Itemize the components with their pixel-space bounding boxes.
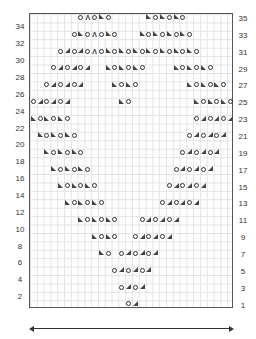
k2tog-icon (207, 132, 214, 140)
k2tog-icon (166, 233, 173, 241)
k2tog-icon (139, 250, 146, 258)
ssk-icon (44, 115, 51, 123)
ssk-icon (64, 166, 71, 174)
yarn-over-icon (140, 268, 145, 273)
k2tog-icon (194, 166, 199, 171)
k2tog-icon (72, 65, 77, 70)
k2tog-icon (65, 48, 70, 53)
yarn-over-icon (85, 167, 90, 172)
sk2p-icon: Λ (91, 31, 98, 39)
k2tog-icon (50, 98, 57, 106)
yarn-over-icon (180, 150, 185, 155)
yarn-over-icon (51, 65, 56, 70)
yarn-over-icon (220, 115, 227, 123)
k2tog-icon (208, 132, 213, 137)
ssk-icon (106, 31, 111, 36)
yarn-over-icon (91, 14, 98, 22)
yarn-over-icon (57, 98, 64, 106)
yarn-over-icon (208, 65, 213, 70)
k2tog-icon (200, 149, 207, 157)
yarn-over-icon (119, 285, 124, 290)
k2tog-icon (214, 116, 219, 121)
yarn-over-icon (167, 183, 172, 188)
yarn-over-icon (152, 216, 159, 224)
yarn-over-icon (99, 32, 104, 37)
yarn-over-icon (64, 115, 71, 123)
row-label-24: 24 (13, 107, 27, 116)
ssk-icon (146, 14, 153, 22)
ssk-icon (174, 65, 179, 70)
yarn-over-icon (180, 149, 187, 157)
row-label-4: 4 (13, 275, 27, 284)
row-label-8: 8 (13, 242, 27, 251)
yarn-over-icon (98, 233, 105, 241)
k2tog-icon (193, 166, 200, 174)
row-label-21: 21 (236, 132, 250, 141)
yarn-over-icon (58, 82, 63, 87)
k2tog-icon (78, 48, 83, 53)
yarn-over-icon (58, 133, 63, 138)
k2tog-icon (146, 267, 153, 275)
yarn-over-icon (72, 49, 77, 54)
yarn-over-icon (153, 49, 158, 54)
ssk-icon (78, 216, 85, 224)
ssk-icon (44, 149, 49, 154)
yarn-over-icon (153, 217, 158, 222)
yarn-over-icon (186, 199, 193, 207)
ssk-icon (92, 217, 97, 222)
yarn-over-icon (200, 98, 207, 106)
yarn-over-icon (72, 167, 77, 172)
row-label-35: 35 (236, 14, 250, 23)
yarn-over-icon (207, 115, 214, 123)
k2tog-icon (174, 217, 179, 222)
ssk-icon (140, 31, 145, 36)
yarn-over-icon (166, 216, 173, 224)
yarn-over-icon (78, 14, 85, 22)
k2tog-icon (140, 234, 145, 239)
ssk-icon (160, 48, 165, 53)
yarn-over-icon (140, 49, 145, 54)
yarn-over-icon (153, 15, 158, 20)
yarn-over-icon (152, 48, 159, 56)
ssk-icon (174, 48, 179, 53)
yarn-over-icon (166, 48, 173, 56)
yarn-over-icon (112, 234, 117, 239)
yarn-over-icon (98, 31, 105, 39)
ssk-icon (65, 166, 70, 171)
k2tog-icon (132, 267, 139, 275)
yarn-over-icon (44, 132, 51, 140)
row-label-22: 22 (13, 124, 27, 133)
yarn-over-icon (167, 15, 172, 20)
ssk-icon (208, 99, 213, 104)
yarn-over-icon (193, 183, 200, 191)
yarn-over-icon (99, 217, 104, 222)
sk2p-icon: Λ (84, 14, 91, 22)
yarn-over-icon (65, 183, 70, 188)
ssk-icon (106, 65, 111, 70)
yarn-over-icon (132, 250, 139, 258)
yarn-over-icon (71, 31, 78, 39)
k2tog-icon (57, 65, 64, 73)
yarn-over-icon (112, 216, 119, 224)
k2tog-icon (133, 301, 138, 306)
yarn-over-icon (208, 116, 213, 121)
ssk-icon (57, 115, 64, 123)
yarn-over-icon (125, 65, 132, 73)
sk2p-icon: Λ (92, 31, 97, 38)
yarn-over-icon (214, 132, 221, 140)
row-label-1: 1 (236, 301, 250, 310)
ssk-icon (174, 14, 179, 19)
ssk-icon (173, 14, 180, 22)
yarn-over-icon (112, 268, 117, 273)
yarn-over-icon (228, 99, 233, 104)
yarn-over-icon (64, 183, 71, 191)
ssk-icon (78, 217, 83, 222)
yarn-over-icon (194, 116, 199, 121)
yarn-over-icon (208, 150, 213, 155)
yarn-over-icon (78, 65, 83, 70)
yarn-over-icon (174, 200, 179, 205)
ssk-icon (201, 82, 206, 87)
k2tog-icon (132, 301, 139, 309)
yarn-over-icon (146, 31, 153, 39)
row-label-33: 33 (236, 31, 250, 40)
